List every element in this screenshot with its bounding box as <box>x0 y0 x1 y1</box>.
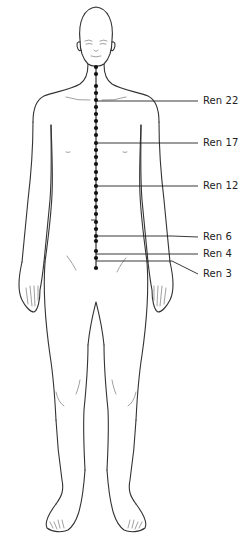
acupoint <box>94 98 98 102</box>
ren-meridian <box>91 65 98 270</box>
acupoint <box>94 155 98 159</box>
acupoint <box>94 148 98 152</box>
acupoint <box>94 91 98 95</box>
acupoint <box>94 162 98 166</box>
label-ren-17: Ren 17 <box>203 137 239 149</box>
acupoint <box>94 177 98 181</box>
label-ren-22: Ren 22 <box>203 95 239 107</box>
acupoint <box>94 266 98 270</box>
acupoint <box>94 220 98 224</box>
acupoint <box>94 84 98 88</box>
acupoint <box>94 212 98 216</box>
head-outline <box>77 7 115 66</box>
acupoint <box>94 239 98 243</box>
acupoint <box>94 133 98 137</box>
acupoint <box>94 65 98 69</box>
acupoint <box>94 72 98 76</box>
acupoint <box>94 249 98 253</box>
acupoint <box>94 105 98 109</box>
leader-line-ren6 <box>96 236 198 237</box>
acupoint <box>94 170 98 174</box>
acupoint <box>94 227 98 231</box>
acupoint <box>94 198 98 202</box>
label-ren-6: Ren 6 <box>203 231 232 243</box>
acupoint <box>94 191 98 195</box>
acupoint <box>94 126 98 130</box>
acupoint <box>94 112 98 116</box>
label-ren-4: Ren 4 <box>203 248 232 260</box>
acupoint <box>94 205 98 209</box>
acupoint <box>94 119 98 123</box>
legs-outline <box>46 345 146 532</box>
label-ren-12: Ren 12 <box>203 180 239 192</box>
acupoint <box>94 256 98 260</box>
label-ren-3: Ren 3 <box>203 268 232 280</box>
acupuncture-diagram: Ren 22 Ren 17 Ren 12 Ren 6 Ren 4 Ren 3 <box>0 0 244 544</box>
